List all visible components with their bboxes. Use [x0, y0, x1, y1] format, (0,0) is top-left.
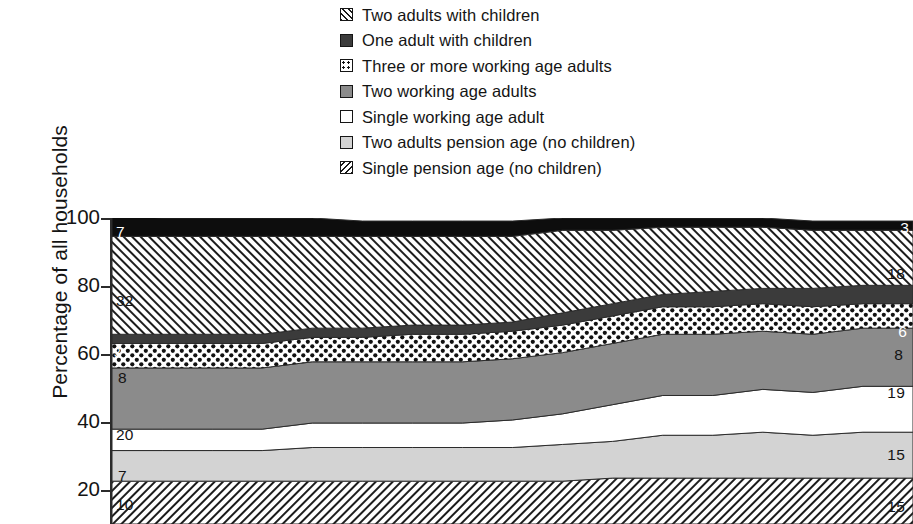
y-axis-tick-labels: 100 80 60 40 20: [42, 0, 100, 524]
y-tick-label-40: 40: [54, 411, 100, 432]
legend-item-single-pension-age: Single pension age (no children): [340, 155, 900, 181]
y-tick-label-60: 60: [54, 343, 100, 364]
legend-item-single-working-age-adult: Single working age adult: [340, 104, 900, 130]
y-tick-mark-100: [101, 218, 110, 220]
y-tick-mark-60: [101, 354, 110, 356]
legend-item-label: One adult with children: [362, 32, 532, 49]
y-tick-label-20: 20: [54, 479, 100, 500]
legend-item-three-or-more-working-age-adults: Three or more working age adults: [340, 53, 900, 79]
legend-item-label: Two adults pension age (no children): [362, 134, 635, 151]
legend-item-one-adult-with-children: One adult with children: [340, 28, 900, 54]
y-tick-label-100: 100: [54, 207, 100, 228]
area-bands: [112, 218, 913, 524]
hatch-forward-swatch-icon: [340, 8, 353, 21]
area-single-pension-age: [112, 478, 913, 524]
area-series-svg: [112, 218, 913, 524]
chart-page: Two adults with children One adult with …: [0, 0, 913, 524]
legend-item-label: Two adults with children: [362, 7, 540, 24]
legend-item-two-adults-pension-age: Two adults pension age (no children): [340, 130, 900, 156]
hatch-backward-swatch-icon: [340, 161, 353, 174]
y-tick-mark-40: [101, 422, 110, 424]
white-swatch-icon: [340, 110, 353, 123]
chart-legend: Two adults with children One adult with …: [340, 2, 900, 181]
legend-item-two-working-age-adults: Two working age adults: [340, 79, 900, 105]
dark-gray-swatch-icon: [340, 34, 353, 47]
legend-item-label: Single working age adult: [362, 109, 544, 126]
stacked-area-plot: 7 32 3 8 20 7 10 3 18 6 8 19 15 15: [112, 218, 913, 524]
light-gray-swatch-icon: [340, 136, 353, 149]
dotted-swatch-icon: [340, 59, 353, 72]
legend-item-label: Single pension age (no children): [362, 160, 602, 177]
legend-item-two-adults-with-children: Two adults with children: [340, 2, 900, 28]
legend-item-label: Two working age adults: [362, 83, 537, 100]
legend-item-label: Three or more working age adults: [362, 58, 612, 75]
mid-gray-swatch-icon: [340, 85, 353, 98]
y-tick-label-80: 80: [54, 275, 100, 296]
y-tick-mark-80: [101, 286, 110, 288]
y-tick-mark-20: [101, 490, 110, 492]
